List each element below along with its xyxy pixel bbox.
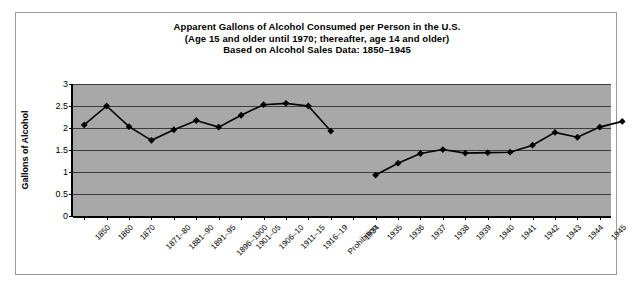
data-point-marker	[596, 124, 603, 131]
data-point-marker	[439, 146, 446, 153]
y-tick-label: 0.5	[55, 189, 68, 199]
x-tick-label: 1860	[116, 223, 135, 242]
data-point-marker	[395, 160, 402, 167]
x-tick-label: 1944	[587, 223, 606, 242]
x-tick-label: 1940	[497, 223, 516, 242]
x-tick-label: 1943	[564, 223, 583, 242]
data-point-marker	[462, 150, 469, 157]
data-point-marker	[507, 149, 514, 156]
chart-frame: Apparent Gallons of Alcohol Consumed per…	[15, 12, 617, 275]
plot-area: 00.511.522.531850186018701871–801881–901…	[71, 84, 611, 216]
chart-title-block: Apparent Gallons of Alcohol Consumed per…	[16, 21, 618, 56]
data-point-marker	[170, 126, 177, 133]
data-point-marker	[552, 129, 559, 136]
data-point-marker	[260, 101, 267, 108]
y-tick-label: 2	[63, 123, 68, 133]
series-line-segment	[376, 121, 623, 175]
series-line-segment	[84, 103, 331, 140]
data-point-marker	[215, 124, 222, 131]
data-point-marker	[529, 142, 536, 149]
chart-title-line-1: Apparent Gallons of Alcohol Consumed per…	[16, 21, 618, 33]
x-tick-label: 1938	[452, 223, 471, 242]
data-point-marker	[619, 118, 626, 125]
y-axis-title: Gallons of Alcohol	[18, 84, 32, 216]
data-point-marker	[193, 117, 200, 124]
chart-title-line-3: Based on Alcohol Sales Data: 1850–1945	[16, 44, 618, 56]
data-point-marker	[574, 134, 581, 141]
x-tick-label: 1936	[407, 223, 426, 242]
y-tick-label: 0	[63, 211, 68, 221]
data-point-marker	[484, 149, 491, 156]
x-tick-label: 1934	[362, 223, 381, 242]
x-tick-label: 1935	[385, 223, 404, 242]
series-alcohol-consumption	[73, 84, 611, 216]
x-axis-line	[73, 216, 611, 218]
y-tick-label: 1	[63, 167, 68, 177]
y-tick-label: 3	[63, 79, 68, 89]
data-point-marker	[417, 150, 424, 157]
y-tick-label: 2.5	[55, 101, 68, 111]
y-tick-label: 1.5	[55, 145, 68, 155]
x-tick-label: 1939	[474, 223, 493, 242]
x-tick-label: 1941	[519, 223, 538, 242]
data-point-marker	[283, 100, 290, 107]
x-tick-label: 1870	[138, 223, 157, 242]
data-point-marker	[372, 172, 379, 179]
x-tick-label: 1942	[542, 223, 561, 242]
chart-title-line-2: (Age 15 and older until 1970; thereafter…	[16, 33, 618, 45]
x-tick-label: 1850	[93, 223, 112, 242]
x-tick-label: 1945	[609, 223, 628, 242]
data-point-marker	[238, 112, 245, 119]
x-tick-label: 1937	[430, 223, 449, 242]
